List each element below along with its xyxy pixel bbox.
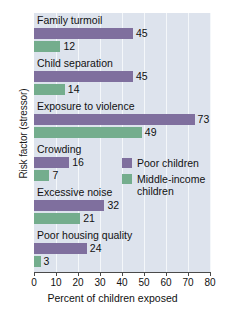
bar-value-label: 16 [72,157,84,168]
legend-item-poor-children[interactable]: Poor children [122,157,214,169]
legend-item-middle-income-children[interactable]: Middle-income children [122,173,214,197]
x-tick-20 [78,272,79,276]
x-axis-title: Percent of children exposed [0,292,225,304]
bar-value-label: 7 [52,170,58,181]
bar-value-label: 24 [90,243,102,254]
bar-middle-income-children[interactable] [34,256,41,267]
x-tick-70 [188,272,189,276]
x-tick-label-40: 40 [110,277,134,289]
legend: Poor children Middle-income children [122,157,214,201]
bar-middle-income-children[interactable] [34,84,65,95]
x-tick-0 [34,272,35,276]
category-label: Exposure to violence [37,100,134,113]
x-tick-label-50: 50 [132,277,156,289]
bar-value-label: 32 [107,200,119,211]
x-tick-50 [144,272,145,276]
category-label: Crowding [37,143,81,156]
y-axis-title: Risk factor (stressor) [18,39,29,229]
bar-middle-income-children[interactable] [34,213,80,224]
x-tick-60 [166,272,167,276]
bar-poor-children[interactable] [34,200,104,211]
bar-middle-income-children[interactable] [34,41,60,52]
legend-swatch-poor-children-icon [122,158,132,168]
category-label: Family turmoil [37,14,102,27]
bar-poor-children[interactable] [34,157,69,168]
x-tick-label-20: 20 [66,277,90,289]
legend-label-middle-income-children: Middle-income children [137,173,214,197]
category-label: Child separation [37,57,113,70]
category-label: Excessive noise [37,186,112,199]
bar-value-label: 49 [145,127,157,138]
bar-value-label: 3 [44,256,50,267]
legend-label-poor-children: Poor children [137,157,214,169]
x-tick-30 [100,272,101,276]
x-tick-80 [210,272,211,276]
bar-value-label: 12 [63,41,75,52]
bar-poor-children[interactable] [34,114,195,125]
bar-poor-children[interactable] [34,71,133,82]
bar-chart: Risk factor (stressor) Family turmoil451… [0,0,225,313]
x-tick-label-0: 0 [22,277,46,289]
bar-value-label: 73 [198,114,210,125]
bar-value-label: 45 [136,71,148,82]
gridline-60 [166,13,167,272]
x-tick-label-60: 60 [154,277,178,289]
x-tick-label-10: 10 [44,277,68,289]
gridline-50 [144,13,145,272]
bar-poor-children[interactable] [34,243,87,254]
category-label: Poor housing quality [37,229,132,242]
x-tick-10 [56,272,57,276]
bar-value-label: 21 [83,213,95,224]
gridline-80 [210,13,211,272]
x-tick-label-70: 70 [176,277,200,289]
bar-middle-income-children[interactable] [34,127,142,138]
bar-poor-children[interactable] [34,28,133,39]
bar-value-label: 14 [68,84,80,95]
x-tick-label-80: 80 [198,277,222,289]
bar-middle-income-children[interactable] [34,170,49,181]
legend-swatch-middle-income-children-icon [122,174,132,184]
gridline-70 [188,13,189,272]
x-tick-40 [122,272,123,276]
bar-value-label: 45 [136,28,148,39]
x-tick-label-30: 30 [88,277,112,289]
